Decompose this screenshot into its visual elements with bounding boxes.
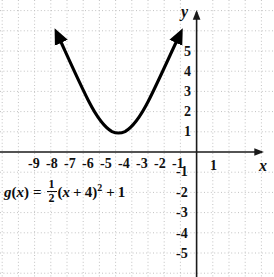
xtick-minus-9: -9 [28,157,40,171]
ytick-minus-4: -4 [176,227,188,241]
ytick-5: 5 [184,45,191,59]
equation-variable-x: x [63,185,71,200]
xtick-minus-5: -5 [100,157,112,171]
xtick-minus-3: -3 [136,157,148,171]
function-equation: g(x) = 1 2 (x+4)2+1 [4,179,125,205]
ytick-3: 3 [184,85,191,99]
x-axis-label: x [259,158,267,174]
ytick-2: 2 [184,105,191,119]
ytick-1: 1 [184,125,191,139]
graph-figure: y x -9 -8 -7 -6 -5 -4 -3 -2 -1 1 5 4 3 2… [0,0,274,277]
equation-close-paren-lhs: ) [24,185,29,200]
xtick-minus-4: -4 [118,157,130,171]
fraction-numerator: 1 [47,178,57,191]
equation-constant-4: 4 [85,185,93,200]
xtick-minus-8: -8 [46,157,58,171]
xtick-minus-7: -7 [64,157,76,171]
ytick-4: 4 [184,65,191,79]
equation-plus-2: + [106,185,115,200]
parabola-curve [57,34,180,133]
ytick-minus-2: -2 [176,186,188,200]
xtick-minus-6: -6 [82,157,94,171]
equation-plus-1: + [73,185,82,200]
equation-x-lhs: x [17,185,25,200]
equation-fraction-one-half: 1 2 [47,178,57,204]
ytick-minus-3: -3 [176,206,188,220]
equation-equals: = [33,185,42,200]
ytick-minus-1: -1 [176,165,188,179]
fraction-denominator: 2 [47,191,57,205]
equation-g: g [4,185,12,200]
xtick-1: 1 [210,159,217,173]
plot-area [0,0,274,277]
equation-constant-1: 1 [118,185,126,200]
ytick-minus-5: -5 [176,247,188,261]
xtick-minus-2: -2 [154,157,166,171]
y-axis-label: y [181,4,188,20]
